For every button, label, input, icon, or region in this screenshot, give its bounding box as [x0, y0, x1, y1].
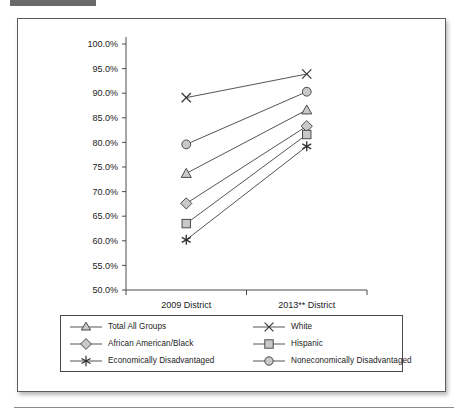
data-point-hispanic-1 — [303, 130, 311, 138]
data-point-total-all-groups-0 — [181, 168, 191, 177]
x-marker-icon — [252, 320, 286, 334]
legend-item-african-american-black[interactable]: African American/Black — [61, 337, 244, 351]
data-point-white-1 — [302, 69, 311, 78]
diamond-marker-icon — [69, 337, 103, 351]
y-axis-tick-label: 65.0% — [92, 211, 118, 221]
y-axis-tick-label: 95.0% — [92, 64, 118, 74]
circle-marker-icon — [252, 354, 286, 368]
legend-label: Noneconomically Disadvantaged — [291, 356, 412, 365]
series-line-african-american-black — [186, 126, 307, 203]
legend-item-hispanic[interactable]: Hispanic — [244, 337, 404, 351]
data-point-economically-disadvantaged-0 — [182, 235, 191, 245]
y-axis-tick-label: 100.0% — [87, 39, 118, 49]
figure-frame: 50.0%55.0%60.0%65.0%70.0%75.0%80.0%85.0%… — [17, 18, 446, 392]
triangle-marker-icon — [69, 320, 103, 334]
legend-label: White — [291, 322, 312, 331]
data-point-noneconomically-disadvantaged-0 — [182, 140, 191, 149]
series-line-white — [186, 74, 307, 98]
legend-item-white[interactable]: White — [244, 320, 404, 334]
page-header-bar — [10, 0, 96, 6]
series-line-total-all-groups — [186, 110, 307, 173]
legend-grid: Total All Groups White African American/… — [61, 316, 402, 371]
series-line-hispanic — [186, 135, 307, 224]
y-axis-tick-label: 50.0% — [92, 285, 118, 295]
square-marker-icon — [252, 337, 286, 351]
asterisk-marker-icon — [69, 354, 103, 368]
series-line-economically-disadvantaged — [186, 146, 307, 239]
data-point-hispanic-0 — [182, 219, 190, 227]
y-axis-tick-label: 90.0% — [92, 88, 118, 98]
data-point-economically-disadvantaged-1 — [302, 141, 311, 151]
y-axis-tick-label: 75.0% — [92, 162, 118, 172]
data-point-noneconomically-disadvantaged-1 — [302, 87, 311, 96]
y-axis-tick-label: 80.0% — [92, 138, 118, 148]
data-point-white-0 — [182, 93, 191, 102]
data-point-total-all-groups-1 — [302, 105, 312, 114]
data-point-african-american-black-0 — [181, 198, 192, 209]
legend-label: Total All Groups — [108, 322, 166, 331]
y-axis-tick-label: 85.0% — [92, 113, 118, 123]
page-bottom-rule — [14, 407, 454, 408]
x-axis-tick-label: 2013** District — [278, 300, 336, 310]
y-axis-tick-label: 60.0% — [92, 236, 118, 246]
series-line-noneconomically-disadvantaged — [186, 92, 307, 145]
legend-label: Economically Disadvantaged — [108, 356, 214, 365]
y-axis-tick-label: 70.0% — [92, 187, 118, 197]
legend-item-total-all-groups[interactable]: Total All Groups — [61, 320, 244, 334]
legend-item-economically-disadvantaged[interactable]: Economically Disadvantaged — [61, 354, 244, 368]
chart-legend: Total All Groups White African American/… — [60, 315, 403, 372]
x-axis-tick-label: 2009 District — [161, 300, 212, 310]
y-axis-tick-label: 55.0% — [92, 261, 118, 271]
legend-label: Hispanic — [291, 339, 323, 348]
legend-item-noneconomically-disadvantaged[interactable]: Noneconomically Disadvantaged — [244, 354, 404, 368]
legend-label: African American/Black — [108, 339, 193, 348]
